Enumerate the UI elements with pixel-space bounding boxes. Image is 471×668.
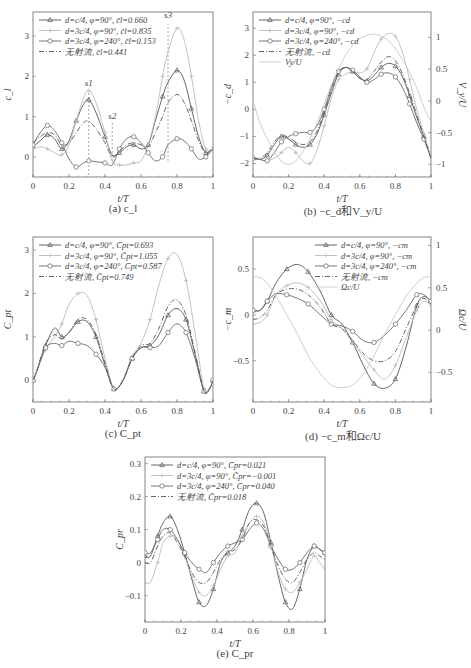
legend-label: d=c/4, φ=90°, −cm [341,240,408,250]
caption-d: (d) −c_m和Ωc/U [253,427,433,443]
x-tick-label: 0.8 [390,406,402,416]
x-tick-label: 0.6 [135,406,147,416]
x-tick-label: 0.4 [211,626,223,636]
annotation-label: s2 [108,111,117,121]
legend-label: d=c/4, φ=90°, c̄l=0.660 [65,15,148,25]
y2-tick-label: 1 [436,240,441,250]
x-tick-label: 0.2 [175,626,186,636]
x-tick-label: 0 [251,406,256,416]
x-tick-label: 0.8 [171,406,183,416]
y-tick-label: 2 [245,50,250,60]
x-tick-label: 0 [31,406,36,416]
y-tick-label: 0 [25,152,30,162]
legend-label: 无射流, C̄pr=0.018 [177,492,247,502]
chart-e: 00.20.40.60.81−0.100.10.20.3t/TC_prd=c/4… [114,457,327,649]
y2-tick-label: 0.5 [436,283,448,293]
y-tick-label: 1 [25,332,30,342]
legend-label: d=3c/4, φ=240°, C̄pr=0.040 [177,481,276,491]
x-tick-label: 0.4 [319,181,331,191]
legend-label: 无射流, −cd [285,47,331,57]
y-tick-label: −1 [239,131,249,141]
y-tick-label: −2 [239,158,249,168]
x-tick-label: 0.2 [283,181,294,191]
chart-a: 00.20.40.60.810123t/Tc_ls1s2s3d=c/4, φ=9… [2,10,215,204]
x-tick-label: 0.8 [283,626,295,636]
y2-tick-label: −1 [436,159,446,169]
legend-label: d=c/4, φ=90°, C̄pt=0.693 [65,240,153,250]
legend-label: d=3c/4, φ=90°, C̄pt=1.055 [65,251,158,261]
y-axis-label: C_pr [114,529,125,550]
y-tick-label: 3 [25,245,30,255]
y-tick-label: 0 [245,104,250,114]
y-axis-label: C_pt [2,310,13,330]
y-tick-label: 0.1 [130,525,141,535]
x-tick-label: 0.4 [99,406,111,416]
x-tick-label: 0.4 [99,181,111,191]
series-line [145,503,325,609]
y2-tick-label: 1 [436,32,441,42]
figure-container: 00.20.40.60.810123t/Tc_ls1s2s3d=c/4, φ=9… [0,0,471,668]
x-tick-label: 0 [143,626,148,636]
x-tick-label: 0.8 [171,181,183,191]
caption-b: (b) −c_d和V_y/U [253,202,433,218]
y-tick-label: 0.5 [238,264,250,274]
y-axis-label: −c_d [222,83,233,105]
x-tick-label: 0.6 [354,406,366,416]
legend-label: d=3c/4, φ=240°, C̄pt=0.587 [65,261,163,271]
caption-e: (e) C_pr [145,647,325,659]
y-tick-label: 3 [25,31,30,41]
y-tick-label: −0.5 [233,356,250,366]
figure-svg: 00.20.40.60.810123t/Tc_ls1s2s3d=c/4, φ=9… [0,0,471,668]
y2-tick-label: 0 [436,325,441,335]
legend-label: Ωc/U [341,282,360,292]
chart-d: 00.20.40.60.81−0.500.5−0.500.51t/T−c_mΩc… [222,237,468,429]
y-axis-label: c_l [2,88,13,100]
y-tick-label: 1 [25,112,30,122]
y-tick-label: 1 [245,77,250,87]
legend-label: d=3c/4, φ=90°, C̄pr=−0.001 [177,471,276,481]
series-line [33,125,213,167]
y2-axis-label: Ωc/U [457,309,468,331]
series-line [253,293,431,342]
y2-tick-label: −0.5 [436,367,453,377]
chart-c: 00.20.40.60.810123t/TC_ptd=c/4, φ=90°, C… [2,237,215,429]
x-tick-label: 0.2 [283,406,294,416]
y2-tick-label: 0 [436,96,441,106]
y2-tick-label: 0.5 [436,64,448,74]
x-tick-label: 0 [251,181,256,191]
x-tick-label: 0.6 [247,626,259,636]
x-tick-label: 0.2 [63,181,74,191]
y-tick-label: 2 [25,288,30,298]
series-line [253,283,431,379]
legend-label: d=3c/4, φ=90°, −cd [285,26,355,36]
annotation-label: s3 [164,10,173,20]
x-tick-label: 1 [323,626,328,636]
legend-label: d=c/4, φ=90°, C̄pr=0.021 [177,460,266,470]
y2-axis-label: V_y/U [457,82,468,108]
legend-label: 无射流, c̄l=0.441 [65,47,127,57]
x-tick-label: 1 [211,181,216,191]
x-tick-label: 1 [429,406,434,416]
legend-label: d=3c/4, φ=240°, −cm [341,261,416,271]
y-tick-label: −0.1 [125,591,141,601]
caption-c: (c) C_pt [33,427,213,439]
legend-label: 无射流, −cm [341,272,388,282]
legend-label: d=3c/4, φ=240°, c̄l=0.153 [65,36,156,46]
caption-a: (a) c_l [33,202,213,214]
x-tick-label: 0.6 [135,181,147,191]
legend-label: Vy/U [285,57,303,67]
x-tick-label: 0.6 [354,181,366,191]
x-tick-label: 0 [31,181,36,191]
chart-b: 00.20.40.60.81−2−10123−1−0.500.51t/T−c_d… [222,12,468,204]
legend-label: d=3c/4, φ=90°, −cm [341,251,412,261]
y-tick-label: 0 [25,375,30,385]
y-tick-label: 0.3 [130,459,142,469]
x-tick-label: 0.8 [390,181,402,191]
x-tick-label: 1 [429,181,434,191]
y-tick-label: 0 [137,558,142,568]
y-tick-label: 2 [25,71,30,81]
x-tick-label: 0.4 [319,406,331,416]
x-tick-label: 1 [211,406,216,416]
y-tick-label: 0.2 [130,492,141,502]
y-tick-label: 3 [245,23,250,33]
